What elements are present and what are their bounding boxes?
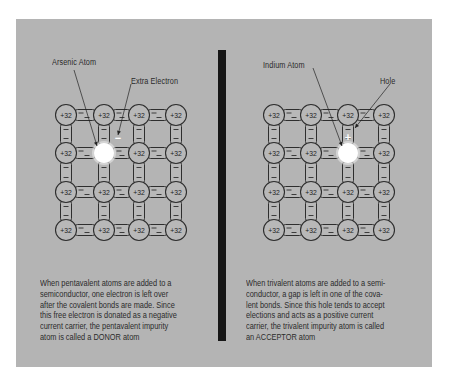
caption-line: When pentavalent atoms are added to a xyxy=(40,278,199,289)
atom-charge-label: +32 xyxy=(305,148,317,158)
atom-charge-label: +32 xyxy=(378,225,390,235)
caption-line: atom is called a DONOR atom xyxy=(40,332,199,343)
atom-charge-label: +32 xyxy=(378,110,390,120)
arsenic-atom-label: Arsenic Atom xyxy=(52,57,96,67)
covalent-bond xyxy=(283,225,303,236)
caption-line: after the covalent bonds are made. Since xyxy=(40,300,199,311)
covalent-bond xyxy=(320,187,340,198)
caption-line: semiconductor, one electron is left over xyxy=(40,289,199,300)
covalent-bond xyxy=(306,201,317,222)
covalent-bond xyxy=(306,162,317,184)
covalent-bond xyxy=(357,225,376,236)
covalent-bond xyxy=(283,148,303,159)
caption-line: When trivalent atoms are added to a semi… xyxy=(246,278,405,289)
covalent-bond xyxy=(379,201,390,222)
impurity-atom xyxy=(338,143,358,163)
caption-line: an ACCEPTOR atom xyxy=(246,332,405,343)
atom-charge-label: +32 xyxy=(378,148,390,158)
atom-charge-label: +32 xyxy=(268,187,280,197)
donor-caption: When pentavalent atoms are added to a se… xyxy=(40,278,199,343)
atom-charge-label: +32 xyxy=(342,110,354,120)
atom-charge-label: +32 xyxy=(378,187,390,197)
atom-charge-label: +32 xyxy=(305,225,317,235)
atom-charge-label: +32 xyxy=(268,148,280,158)
covalent-bond xyxy=(269,162,280,184)
caption-line: conductor, a gap is left in one of the c… xyxy=(246,289,405,300)
atom-charge-label: +32 xyxy=(268,225,280,235)
atom-charge-label: +32 xyxy=(342,225,354,235)
acceptor-caption: When trivalent atoms are added to a semi… xyxy=(246,278,405,343)
covalent-bond xyxy=(357,187,376,198)
covalent-bond xyxy=(320,110,340,121)
caption-line: this free electron is donated as a negat… xyxy=(40,310,199,321)
covalent-bond xyxy=(343,201,354,222)
covalent-bond xyxy=(357,110,376,121)
covalent-bond xyxy=(269,201,280,222)
covalent-bond xyxy=(283,110,303,121)
lattice: +32+32+32+32+32+32+32+32+32+32+32+32+32+… xyxy=(264,68,395,241)
covalent-bond xyxy=(320,225,340,236)
atom-charge-label: +32 xyxy=(268,110,280,120)
hole-label: Hole xyxy=(380,76,395,86)
covalent-bond xyxy=(379,162,390,184)
indium-atom-label: Indium Atom xyxy=(263,60,305,70)
covalent-bond xyxy=(306,124,317,145)
covalent-bond xyxy=(379,124,390,145)
caption-line: elections and acts as a positive current xyxy=(246,310,405,321)
carrier-symbol: + xyxy=(345,131,351,143)
caption-line: carrier, the trivalent impurity atom is … xyxy=(246,321,405,332)
atom-charge-label: +32 xyxy=(305,187,317,197)
covalent-bond xyxy=(283,187,303,198)
atom-charge-label: +32 xyxy=(305,110,317,120)
covalent-bond xyxy=(269,124,280,145)
extra-electron-label: Extra Electron xyxy=(131,76,178,86)
caption-line: lent bonds. Since this hole tends to acc… xyxy=(246,300,405,311)
arrowhead-icon xyxy=(355,124,359,128)
caption-line: current carrier, the pentavalent impurit… xyxy=(40,321,199,332)
atom-charge-label: +32 xyxy=(342,187,354,197)
